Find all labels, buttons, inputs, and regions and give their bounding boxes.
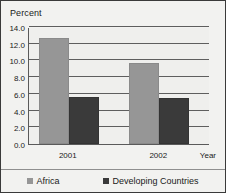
y-axis-tick-label: 2.0 <box>1 124 25 133</box>
chart-figure: Percent 14.012.010.08.06.04.02.00.0 Year… <box>0 0 226 193</box>
y-axis-tick-label: 12.0 <box>1 40 25 49</box>
legend-label: Developing Countries <box>112 176 198 186</box>
y-axis-title: Percent <box>10 8 42 18</box>
y-axis-tick-label: 8.0 <box>1 74 25 83</box>
y-axis-tick-labels: 14.012.010.08.06.04.02.00.0 <box>1 28 25 145</box>
legend-item: Africa <box>27 176 59 186</box>
bar <box>39 38 69 144</box>
y-axis-tick-label: 4.0 <box>1 107 25 116</box>
bar <box>159 98 189 144</box>
x-axis-title: Year <box>200 151 216 160</box>
legend-label: Africa <box>36 176 59 186</box>
bar <box>129 63 159 144</box>
x-axis-tick-label: 2001 <box>59 151 77 160</box>
legend-swatch-icon <box>103 178 109 184</box>
y-axis-tick-label: 14.0 <box>1 24 25 33</box>
legend-item: Developing Countries <box>103 176 198 186</box>
plot-area <box>28 28 209 145</box>
y-axis-tick-label: 6.0 <box>1 90 25 99</box>
y-axis-tick-label: 0.0 <box>1 141 25 150</box>
gridline <box>29 26 209 27</box>
chart-legend: AfricaDeveloping Countries <box>1 169 225 192</box>
y-axis-tick-label: 10.0 <box>1 57 25 66</box>
x-axis-tick-label: 2002 <box>149 151 167 160</box>
legend-swatch-icon <box>27 178 33 184</box>
bar <box>69 97 99 144</box>
